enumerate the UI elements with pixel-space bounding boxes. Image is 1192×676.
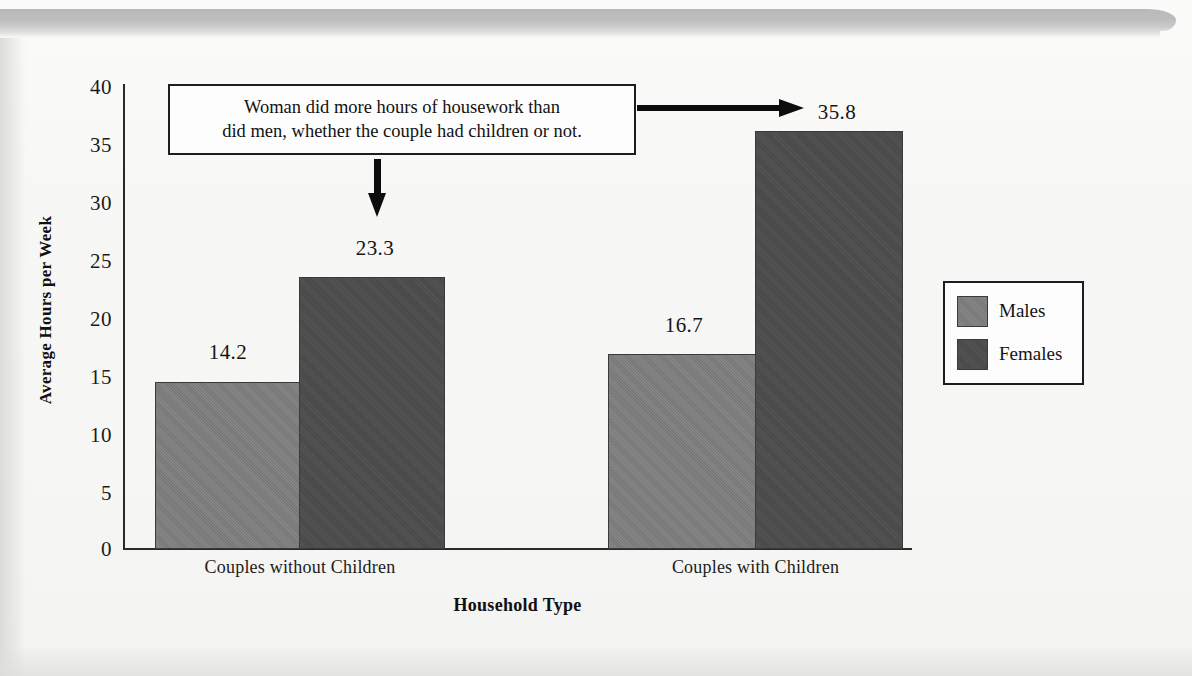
arrow-right-shaft [637,105,783,111]
y-tick-label: 35 [42,133,112,158]
bar-value-label-23-3: 23.3 [327,236,423,261]
legend-item-females: Females [957,337,1072,371]
legend-item-males: Males [957,294,1072,328]
annotation-callout-box: Woman did more hours of housework than d… [168,84,636,155]
bar-chart: 40 35 30 25 20 15 10 5 0 Average Hours p… [0,0,1192,676]
y-axis-title: Average Hours per Week [36,180,56,440]
arrow-down-head [368,193,386,217]
y-tick-label: 0 [42,537,112,562]
bar-females-with-children [755,131,903,549]
bar-value-label-16-7: 16.7 [636,313,732,338]
arrow-down-icon [368,159,386,217]
bar-males-with-children [608,354,756,549]
arrow-right-icon [637,99,804,117]
legend-swatch-females-icon [957,339,988,370]
y-axis-line [123,84,125,550]
arrow-down-shaft [374,159,381,197]
y-tick-label: 5 [42,481,112,506]
legend-label-females: Females [999,343,1062,365]
annotation-line-1: Woman did more hours of housework than [180,95,624,119]
bar-males-without-children [155,382,300,549]
chart-legend: Males Females [943,281,1084,385]
bar-females-without-children [299,277,445,549]
x-category-label-couples-with-children: Couples with Children [608,557,903,578]
annotation-line-2: did men, whether the couple had children… [180,119,624,143]
chart-page: 40 35 30 25 20 15 10 5 0 Average Hours p… [0,0,1192,676]
arrow-right-head [779,99,804,117]
x-axis-title: Household Type [123,595,912,616]
x-category-label-couples-without-children: Couples without Children [155,557,445,578]
legend-swatch-males-icon [957,296,988,327]
bar-value-label-14-2: 14.2 [180,340,276,365]
y-tick-label: 40 [42,75,112,100]
legend-label-males: Males [999,300,1045,322]
